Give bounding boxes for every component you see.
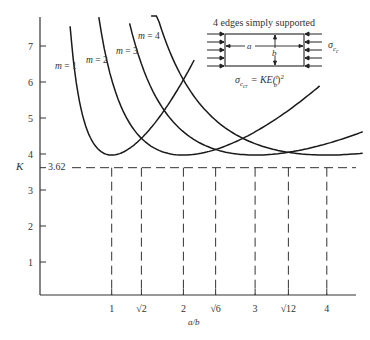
y-tick-label: 7 [28,41,33,52]
applied-stress-label: σcc [328,39,339,54]
critical-stress-formula: σccr= KE(tb)2 [235,73,284,89]
length-label: a [247,41,252,51]
min-value-label: 3.62 [48,161,66,172]
series-label-m4: m = 4 [138,31,160,41]
x-tick-label: √6 [210,303,221,314]
buckling-coefficient-chart: 1234567 1√22√63√124 K 3.62 a/b m = 1 m =… [0,0,370,340]
y-tick-label: 4 [28,149,33,160]
x-axis-ticks: 1√22√63√124 [109,289,329,314]
dashed-guide-lines [72,168,356,295]
x-axis-label: a/b [188,317,200,327]
plate-rectangle [225,34,304,66]
x-tick-label: 2 [181,303,186,314]
series-label-m1: m = 1 [55,61,77,71]
x-tick-label: 1 [109,303,114,314]
curve-m4 [151,16,363,155]
plate-inset-diagram: 4 edges simply supported a b [207,17,339,89]
y-axis-ticks: 1234567 [28,41,46,268]
x-tick-label: √12 [281,303,297,314]
inset-title: 4 edges simply supported [213,17,315,28]
curve-m2 [99,17,320,155]
y-axis-label: K [15,160,24,172]
y-tick-label: 2 [28,221,33,232]
series-label-m2: m = 2 [86,55,108,65]
y-tick-label: 3 [28,185,33,196]
series-label-m3: m = 3 [116,46,138,56]
k-curves [70,16,363,155]
x-tick-label: 4 [324,303,329,314]
x-tick-label: 3 [253,303,258,314]
y-tick-label: 5 [28,113,33,124]
y-tick-label: 6 [28,77,33,88]
left-compression-arrows-icon [207,32,224,68]
right-compression-arrows-icon [305,32,322,68]
x-tick-label: √2 [136,303,147,314]
y-tick-label: 1 [28,257,33,268]
length-dimension-arrow-icon [226,45,303,48]
width-label: b [272,48,277,58]
